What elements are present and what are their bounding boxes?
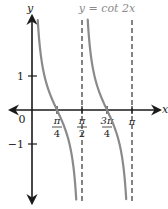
x-tick-label: 0 [19, 113, 26, 126]
function-label: y = cot 2x [78, 2, 136, 15]
x-tick-label-denominator: 2 [79, 128, 85, 139]
x-tick-label-denominator: 4 [104, 128, 110, 139]
x-tick-label-denominator: 4 [54, 128, 60, 139]
x-tick-label: π [128, 116, 136, 127]
x-axis-label: x [162, 103, 168, 116]
x-tick-label-numerator: π [78, 115, 86, 126]
y-tick-label: −1 [8, 138, 24, 151]
cot-2x-graph: 0π4π23π4π1−1 y x y = cot 2x [0, 0, 168, 209]
y-tick-label: 1 [17, 70, 24, 83]
y-axis-label: y [26, 2, 34, 15]
